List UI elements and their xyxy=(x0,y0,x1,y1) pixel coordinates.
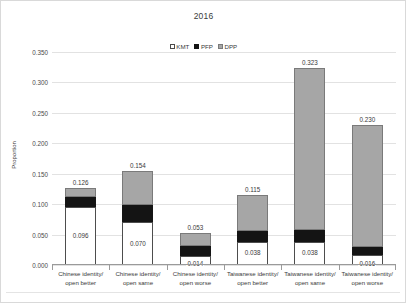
y-axis-title: Proportion xyxy=(11,125,17,185)
bar-slot[interactable]: 0.1540.070 xyxy=(109,52,166,265)
category-label-line: open same xyxy=(281,279,338,288)
bar-stack[interactable]: 0.038 xyxy=(294,68,325,265)
legend-label-kmt: KMT xyxy=(176,43,189,50)
legend-item-dpp: DPP xyxy=(218,43,237,50)
bar-stack[interactable]: 0.070 xyxy=(122,171,153,265)
bar-segment-dpp[interactable] xyxy=(65,188,96,197)
bar-segment-dpp[interactable] xyxy=(294,68,325,229)
bar-total-label: 0.126 xyxy=(73,179,89,186)
category-label-line: open better xyxy=(52,279,109,288)
bar-stack[interactable]: 0.038 xyxy=(237,195,268,265)
stacked-bar-chart: 2016 KMT PFP DPP Proportion 0.3500.3000.… xyxy=(0,0,407,304)
bar-stack[interactable]: 0.096 xyxy=(65,188,96,265)
y-tick-label: 0.050 xyxy=(32,231,48,238)
plot-area: 0.3500.3000.2500.2000.1500.1000.0500.000… xyxy=(52,52,396,265)
legend-swatch-pfp xyxy=(194,44,199,49)
bar-segment-dpp[interactable] xyxy=(122,171,153,205)
category-label-line: open worse xyxy=(339,279,396,288)
legend-swatch-kmt xyxy=(170,44,175,49)
bar-slot[interactable]: 0.0530.014 xyxy=(167,52,224,265)
bar-series-group: 0.1260.0960.1540.0700.0530.0140.1150.038… xyxy=(52,52,396,265)
bar-segment-dpp[interactable] xyxy=(180,233,211,246)
segment-value-label: 0.038 xyxy=(301,250,319,257)
segment-value-label: 0.096 xyxy=(72,233,90,240)
bar-segment-kmt[interactable]: 0.038 xyxy=(294,242,325,265)
bottom-rule xyxy=(6,292,400,293)
y-tick-label: 0.150 xyxy=(32,170,48,177)
y-tick-label: 0.200 xyxy=(32,140,48,147)
legend-item-pfp: PFP xyxy=(194,43,213,50)
category-label-line: Chinese identity/ xyxy=(167,270,224,279)
bar-segment-pfp[interactable] xyxy=(122,205,153,222)
chart-title: 2016 xyxy=(0,11,407,21)
bar-segment-dpp[interactable] xyxy=(352,125,383,247)
legend-item-kmt: KMT xyxy=(170,43,190,50)
x-axis-category-label: Chinese identity/open better xyxy=(52,270,109,288)
bar-segment-pfp[interactable] xyxy=(180,246,211,256)
y-tick-label: 0.100 xyxy=(32,201,48,208)
bar-segment-pfp[interactable] xyxy=(352,247,383,255)
category-label-line: open same xyxy=(109,279,166,288)
chart-legend: KMT PFP DPP xyxy=(0,43,407,50)
bar-stack[interactable]: 0.016 xyxy=(352,125,383,265)
x-axis-category-label: Taiwanese identity/open worse xyxy=(339,270,396,288)
legend-swatch-dpp xyxy=(218,44,223,49)
x-axis-category-label: Taiwanese identity/open same xyxy=(281,270,338,288)
x-axis-category-labels: Chinese identity/open betterChinese iden… xyxy=(52,270,396,288)
category-label-line: Taiwanese identity/ xyxy=(281,270,338,279)
x-axis-category-label: Chinese identity/open worse xyxy=(167,270,224,288)
segment-value-label: 0.038 xyxy=(244,250,262,257)
bar-stack[interactable]: 0.014 xyxy=(180,233,211,265)
legend-label-pfp: PFP xyxy=(201,43,213,50)
bar-slot[interactable]: 0.2300.016 xyxy=(339,52,396,265)
x-axis-category-label: Chinese identity/open same xyxy=(109,270,166,288)
y-tick-label: 0.350 xyxy=(32,49,48,56)
category-label-line: Chinese identity/ xyxy=(52,270,109,279)
legend-label-dpp: DPP xyxy=(224,43,237,50)
bar-total-label: 0.323 xyxy=(302,59,318,66)
bar-segment-pfp[interactable] xyxy=(65,197,96,207)
y-tick-label: 0.250 xyxy=(32,109,48,116)
category-label-line: open better xyxy=(224,279,281,288)
bar-slot[interactable]: 0.1260.096 xyxy=(52,52,109,265)
bar-segment-kmt[interactable]: 0.038 xyxy=(237,242,268,265)
category-label-line: open worse xyxy=(167,279,224,288)
category-label-line: Chinese identity/ xyxy=(109,270,166,279)
x-axis-line xyxy=(52,264,396,265)
y-tick-label: 0.300 xyxy=(32,79,48,86)
segment-value-label: 0.070 xyxy=(129,241,147,248)
bar-segment-dpp[interactable] xyxy=(237,195,268,231)
x-axis-category-label: Taiwanese identity/open better xyxy=(224,270,281,288)
category-label-line: Taiwanese identity/ xyxy=(224,270,281,279)
bar-segment-pfp[interactable] xyxy=(294,230,325,242)
category-label-line: Taiwanese identity/ xyxy=(339,270,396,279)
y-tick-label: 0.000 xyxy=(32,262,48,269)
bar-slot[interactable]: 0.3230.038 xyxy=(281,52,338,265)
bar-total-label: 0.115 xyxy=(245,186,260,193)
bar-segment-pfp[interactable] xyxy=(237,231,268,242)
bar-segment-kmt[interactable]: 0.070 xyxy=(122,222,153,265)
bar-total-label: 0.053 xyxy=(187,224,203,231)
bar-slot[interactable]: 0.1150.038 xyxy=(224,52,281,265)
bar-total-label: 0.154 xyxy=(130,162,146,169)
bar-total-label: 0.230 xyxy=(359,116,375,123)
bar-segment-kmt[interactable]: 0.096 xyxy=(65,207,96,265)
